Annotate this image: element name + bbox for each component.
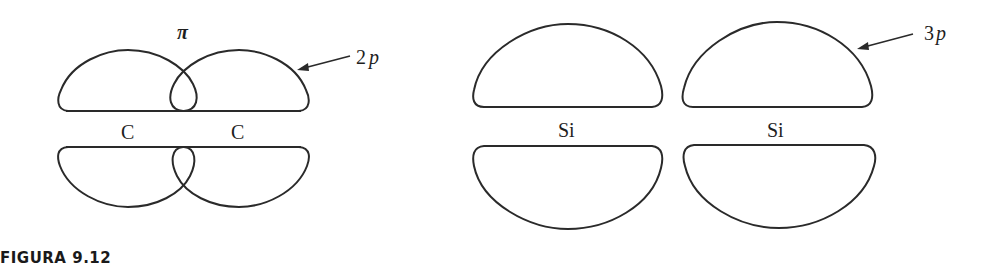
silicon-atom-label-right: Si [767,119,784,141]
silicon-left-top-3p-lobe [473,24,662,107]
silicon-atom-label-left: Si [558,119,575,141]
silicon-right-bottom-3p-lobe [684,145,876,228]
carbon-pi-bond-diagram: π C C 2p [58,21,379,207]
silicon-p-orbital-diagram: Si Si 3p [473,22,946,229]
carbon-atom-label-left: C [121,121,134,143]
orbital-overlap-figure: π C C 2p Si Si 3p [0,0,990,273]
carbon-atom-label-right: C [231,121,244,143]
figure-caption: FIGURA 9.12 [0,249,111,267]
pi-bond-label: π [177,21,189,43]
silicon-left-bottom-3p-lobe [473,146,662,229]
orbital-2p-label: 2p [356,46,379,69]
orbital-3p-label: 3p [924,22,946,45]
arrow-3p-icon [857,34,913,50]
silicon-right-top-3p-lobe [683,22,873,107]
arrow-2p-icon [297,56,350,71]
